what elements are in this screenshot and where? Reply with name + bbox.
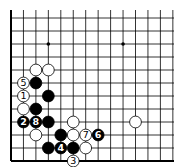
move-number-label: 1: [20, 90, 26, 101]
move-number-label: 8: [33, 116, 40, 127]
black-stone-6: 6: [92, 129, 104, 141]
move-number-label: 3: [70, 155, 76, 166]
white-stone: [130, 116, 142, 128]
white-stone: [42, 64, 54, 76]
stone-circle: [30, 77, 42, 89]
white-stone: [30, 64, 42, 76]
black-stone: [42, 116, 54, 128]
move-number-label: 2: [20, 116, 27, 127]
white-stone-5: 5: [18, 77, 30, 89]
white-stone: [67, 116, 79, 128]
black-stone-2: 2: [18, 116, 30, 128]
stone-circle: [42, 90, 54, 102]
stone-circle: [130, 116, 142, 128]
black-stone: [42, 90, 54, 102]
black-stone: [55, 129, 67, 141]
stone-circle: [67, 142, 79, 154]
stone-circle: [42, 116, 54, 128]
stone-circle: [67, 129, 79, 141]
white-stone: [18, 103, 30, 115]
white-stone: [80, 142, 92, 154]
black-stone: [67, 142, 79, 154]
move-number-label: 6: [95, 129, 102, 140]
black-stone: [30, 103, 42, 115]
go-board: 51287643: [0, 0, 174, 167]
stone-circle: [18, 103, 30, 115]
stone-circle: [67, 116, 79, 128]
black-stone-4: 4: [55, 142, 67, 154]
stone-circle: [42, 64, 54, 76]
star-point: [121, 42, 125, 46]
white-stone-7: 7: [80, 129, 92, 141]
star-point: [47, 42, 51, 46]
white-stone-1: 1: [18, 90, 30, 102]
white-stone: [30, 129, 42, 141]
black-stone: [42, 142, 54, 154]
stone-circle: [30, 129, 42, 141]
move-number-label: 5: [20, 77, 26, 88]
white-stone-3: 3: [67, 155, 79, 167]
move-number-label: 4: [57, 142, 64, 153]
stone-circle: [30, 64, 42, 76]
stone-circle: [80, 142, 92, 154]
move-number-label: 7: [83, 129, 89, 140]
stone-circle: [42, 142, 54, 154]
black-stone-8: 8: [30, 116, 42, 128]
stone-circle: [30, 103, 42, 115]
white-stone: [67, 129, 79, 141]
black-stone: [30, 77, 42, 89]
stone-circle: [55, 129, 67, 141]
